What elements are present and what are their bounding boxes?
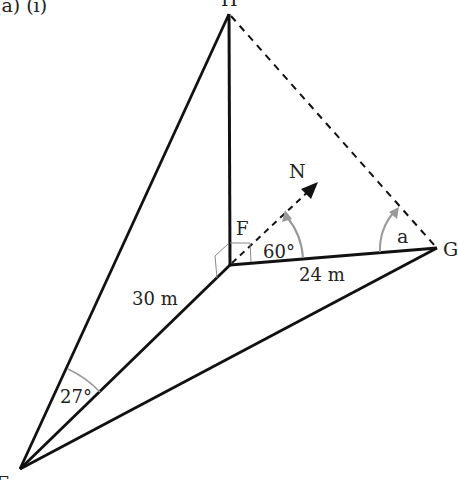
angle-label-a: a [397,225,408,247]
point-label-E: E [0,472,10,480]
part-label: (a) (i) [0,0,47,16]
edge-HF [229,14,230,265]
angle-label-27: 27° [60,386,92,407]
angle-label-60: 60° [263,241,295,262]
point-label-G: G [443,238,458,260]
north-arrow-head [301,182,318,199]
edge-GE [20,248,437,469]
point-label-F: F [236,218,249,239]
length-label-FE: 30 m [132,288,178,309]
edge-FG [230,248,437,265]
point-label-H: H [221,0,238,10]
angle-arc-a [380,212,394,252]
edge-HG-dashed [231,16,435,246]
edge-FE [20,265,230,469]
diagram-canvas: (a) (i) H F G E N 60° a 27° 30 m 24 m [0,0,458,480]
right-angle-marker-side [230,243,251,262]
north-label: N [289,160,306,182]
edge-HE [20,14,229,469]
length-label-FG: 24 m [299,264,345,285]
